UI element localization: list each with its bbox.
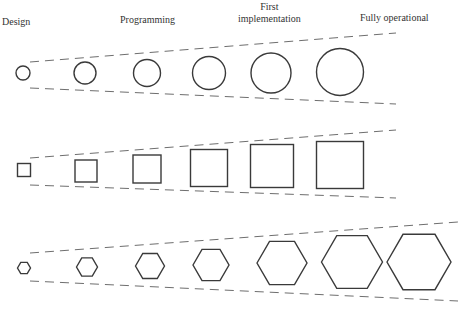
square-shape-5 — [251, 145, 294, 188]
guide-line-top — [30, 222, 458, 253]
hexagon-shape-1 — [18, 262, 31, 273]
square-shape-3 — [133, 155, 161, 183]
guide-line-bottom — [30, 281, 458, 301]
guide-line-top — [30, 130, 396, 158]
square-shape-4 — [191, 150, 228, 187]
hexagon-shape-6 — [322, 236, 383, 289]
circle-shape-5 — [251, 53, 291, 93]
square-shape-2 — [75, 160, 97, 182]
row-hexagons — [18, 222, 459, 301]
circle-shape-3 — [134, 60, 161, 87]
hexagon-shape-5 — [257, 241, 307, 284]
hexagon-shape-7 — [387, 234, 451, 289]
square-shape-6 — [317, 142, 364, 189]
stage-label-design: Design — [2, 16, 30, 28]
circle-shape-6 — [317, 49, 364, 96]
stage-label-fully-operational: Fully operational — [360, 12, 429, 24]
stage-label-programming: Programming — [120, 14, 175, 26]
circle-shape-1 — [16, 66, 30, 80]
stage-label-first-implementation: First implementation — [238, 1, 301, 25]
hexagon-shape-3 — [136, 253, 165, 278]
hexagon-shape-4 — [193, 249, 229, 280]
growth-diagram — [0, 0, 464, 309]
hexagon-shape-2 — [77, 258, 98, 276]
circle-shape-2 — [74, 62, 96, 84]
row-circles — [16, 33, 396, 104]
row-squares — [18, 130, 397, 198]
circle-shape-4 — [193, 57, 226, 90]
square-shape-1 — [18, 164, 31, 177]
